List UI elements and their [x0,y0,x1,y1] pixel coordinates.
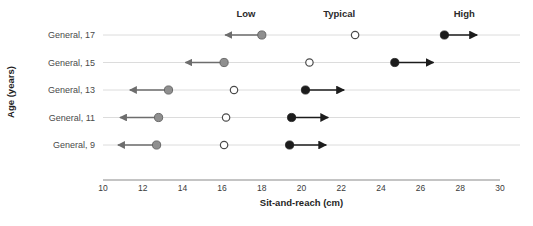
sit-and-reach-chart: LowTypicalHighGeneral, 17General, 15Gene… [0,0,533,226]
x-tick-label: 28 [456,183,466,193]
low-marker [152,141,160,149]
typical-marker [220,141,227,148]
x-tick-label: 16 [217,183,227,193]
high-marker [440,31,448,39]
x-tick-label: 14 [178,183,188,193]
column-header-high: High [454,8,475,19]
low-marker [220,58,228,66]
high-marker [391,58,399,66]
row-label: General, 15 [48,58,95,68]
column-header-typical: Typical [323,8,355,19]
low-marker [164,86,172,94]
x-axis-title: Sit-and-reach (cm) [260,197,343,208]
x-tick-label: 10 [98,183,108,193]
x-tick-label: 24 [376,183,386,193]
y-axis-title: Age (years) [5,66,16,118]
typical-marker [351,31,358,38]
column-header-low: Low [236,8,256,19]
typical-marker [222,114,229,121]
low-marker [154,113,162,121]
high-marker [301,86,309,94]
x-tick-label: 26 [416,183,426,193]
x-tick-label: 18 [257,183,267,193]
high-marker [287,113,295,121]
row-label: General, 9 [53,140,95,150]
x-tick-label: 20 [297,183,307,193]
row-label: General, 11 [49,113,95,123]
high-marker [285,141,293,149]
x-tick-label: 30 [495,183,505,193]
row-label: General, 17 [48,30,95,40]
chart-canvas: LowTypicalHighGeneral, 17General, 15Gene… [0,0,533,226]
typical-marker [230,86,237,93]
row-label: General, 13 [48,85,95,95]
low-marker [258,31,266,39]
typical-marker [306,59,313,66]
x-tick-label: 12 [138,183,148,193]
x-tick-label: 22 [336,183,346,193]
